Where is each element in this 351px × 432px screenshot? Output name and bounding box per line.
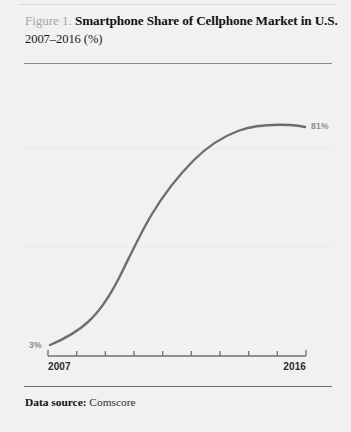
figure-card: Figure 1. Smartphone Share of Cellphone … <box>0 0 351 432</box>
figure-title-line-2: 2007–2016 (%) <box>25 30 325 48</box>
x-tick-label-start: 2007 <box>48 361 71 372</box>
figure-title-block: Figure 1. Smartphone Share of Cellphone … <box>25 12 325 48</box>
x-axis-ticks <box>48 350 306 356</box>
data-line-smartphone-share <box>50 125 305 345</box>
figure-subtitle: 2007–2016 (%) <box>25 32 102 46</box>
x-tick-label-end: 2016 <box>283 361 306 372</box>
start-value-label: 3% <box>29 340 42 350</box>
footer-divider <box>24 386 332 387</box>
figure-number-label: Figure 1. <box>25 13 72 28</box>
data-source-value: Comscore <box>89 396 135 408</box>
data-source-note: Data source: Comscore <box>25 396 136 408</box>
title-divider <box>24 63 332 64</box>
figure-title-line-1: Figure 1. Smartphone Share of Cellphone … <box>25 12 325 30</box>
end-value-label: 81% <box>311 121 329 131</box>
chart-gridlines <box>24 148 332 247</box>
data-source-label: Data source: <box>25 396 86 408</box>
top-divider <box>18 4 336 5</box>
chart-plot-area: 3% 81% 2007 2016 <box>0 68 351 380</box>
page-title: Smartphone Share of Cellphone Market in … <box>75 13 338 28</box>
line-chart-svg: 3% 81% 2007 2016 <box>0 68 351 380</box>
